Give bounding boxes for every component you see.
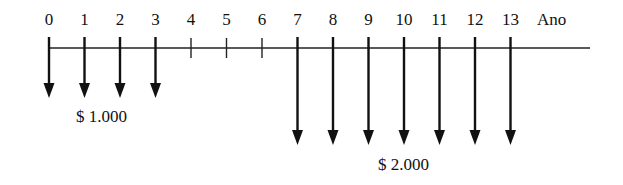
down-arrow-icon bbox=[328, 37, 339, 145]
period-label: 4 bbox=[187, 10, 196, 29]
period-label: 11 bbox=[431, 10, 447, 29]
period-label: 6 bbox=[258, 10, 267, 29]
down-arrow-icon bbox=[115, 37, 126, 98]
down-arrow-icon bbox=[434, 37, 445, 145]
down-arrow-icon bbox=[505, 37, 516, 145]
amount-label-large: $ 2.000 bbox=[378, 155, 429, 174]
amount-label-small: $ 1.000 bbox=[76, 107, 127, 126]
period-label: 13 bbox=[502, 10, 519, 29]
period-label: 0 bbox=[45, 10, 54, 29]
period-labels: 012345678910111213 bbox=[45, 10, 519, 29]
down-arrow-icon bbox=[399, 37, 410, 145]
period-label: 7 bbox=[293, 10, 302, 29]
period-label: 5 bbox=[222, 10, 231, 29]
cash-flow-diagram: 012345678910111213 Ano $ 1.000 $ 2.000 bbox=[0, 0, 623, 185]
period-label: 3 bbox=[151, 10, 160, 29]
axis-label-ano: Ano bbox=[537, 10, 566, 29]
cash-flow-arrows bbox=[44, 37, 517, 145]
down-arrow-icon bbox=[292, 37, 303, 145]
down-arrow-icon bbox=[363, 37, 374, 145]
period-label: 9 bbox=[364, 10, 373, 29]
period-label: 10 bbox=[396, 10, 413, 29]
down-arrow-icon bbox=[44, 37, 55, 98]
period-label: 8 bbox=[329, 10, 338, 29]
period-label: 1 bbox=[80, 10, 89, 29]
period-label: 2 bbox=[116, 10, 125, 29]
down-arrow-icon bbox=[79, 37, 90, 98]
period-label: 12 bbox=[467, 10, 484, 29]
down-arrow-icon bbox=[150, 37, 161, 98]
down-arrow-icon bbox=[470, 37, 481, 145]
